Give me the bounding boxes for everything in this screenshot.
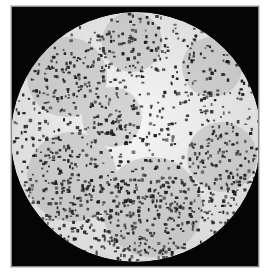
specimen-area xyxy=(12,12,258,263)
microscope-field-view xyxy=(12,7,258,266)
microscope-frame xyxy=(11,6,259,267)
